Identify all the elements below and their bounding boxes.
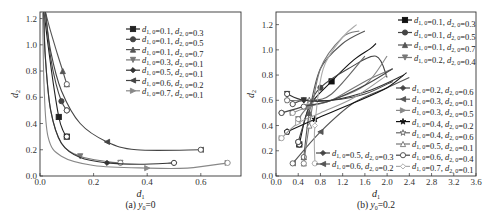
marker-square <box>56 114 61 119</box>
marker-circle <box>59 99 64 104</box>
marker-left-triangle <box>130 78 135 83</box>
marker-circle <box>312 161 317 166</box>
y-tick-label: 0.0 <box>26 171 38 181</box>
marker-diamond <box>400 85 405 90</box>
y-tick-label: 0.2 <box>262 146 273 156</box>
y-tick-label: 0.6 <box>262 95 274 105</box>
chart-a: 0.00.20.40.60.00.20.40.60.81.01.2d1d2(a)… <box>9 12 241 211</box>
marker-square <box>402 17 407 22</box>
y-tick-label: 0.4 <box>262 121 274 131</box>
series-line <box>282 75 388 138</box>
y-tick-label: 1.2 <box>26 14 37 24</box>
marker-circle <box>290 110 295 115</box>
x-axis-label: d1 <box>137 188 145 200</box>
marker-circle <box>64 82 69 87</box>
x-tick-label: 2.4 <box>404 177 416 187</box>
legend-label: d1, 0=0.1, d2, 0=0.5 <box>414 28 476 42</box>
marker-left-triangle <box>400 97 405 102</box>
marker-circle <box>171 160 176 165</box>
x-tick-label: 3.2 <box>448 177 459 187</box>
y-axis-label: d2 <box>245 90 257 98</box>
marker-star <box>400 130 406 136</box>
marker-circle <box>279 136 284 141</box>
marker-circle <box>290 101 295 106</box>
marker-diamond <box>130 68 135 73</box>
series-line <box>304 31 365 157</box>
marker-circle <box>64 134 69 139</box>
marker-square <box>130 26 135 31</box>
marker-left-triangle <box>320 161 325 166</box>
marker-star <box>400 119 406 125</box>
x-tick-label: 3.6 <box>470 177 482 187</box>
x-tick-label: 0.2 <box>88 177 99 187</box>
y-tick-label: 0.8 <box>26 66 38 76</box>
x-tick-label: 0.4 <box>142 177 154 187</box>
y-tick-label: 1.2 <box>262 20 273 30</box>
legend: d1, 0=0.1, d2, 0=0.3d1, 0=0.1, d2, 0=0.5… <box>126 24 204 100</box>
marker-circle <box>290 161 295 166</box>
x-tick-label: 1.6 <box>359 177 371 187</box>
y-tick-label: 0.4 <box>26 119 38 129</box>
y-tick-label: 0.0 <box>262 171 274 181</box>
x-tick-label: 1.2 <box>337 177 348 187</box>
marker-triangle <box>60 68 65 73</box>
marker-circle <box>402 30 407 35</box>
marker-circle <box>296 139 301 144</box>
marker-left-triangle <box>104 139 109 144</box>
marker-circle <box>64 108 69 113</box>
x-tick-label: 0.4 <box>293 177 305 187</box>
marker-circle <box>130 37 135 42</box>
marker-diamond <box>320 150 325 155</box>
y-tick-label: 0.2 <box>26 145 37 155</box>
legend-label: d1, 0=0.1, d2, 0=0.3 <box>414 15 476 29</box>
y-tick-label: 0.6 <box>26 92 38 102</box>
marker-right-triangle <box>145 166 150 171</box>
y-axis-label: d2 <box>9 90 21 98</box>
marker-diamond <box>400 164 405 169</box>
marker-circle <box>198 147 203 152</box>
y-tick-label: 0.8 <box>262 70 274 80</box>
marker-circle <box>301 161 306 166</box>
legend-b-lower: d1, 0=0.2, d2, 0=0.6d1, 0=0.3, d2, 0=0.1… <box>396 83 474 175</box>
marker-right-triangle <box>130 88 135 93</box>
marker-circle <box>400 153 405 158</box>
x-tick-label: 0.8 <box>315 177 327 187</box>
marker-circle <box>301 104 306 109</box>
x-tick-label: 0.6 <box>195 177 207 187</box>
legend-label: d1, 0=0.2, d2, 0=0.6 <box>412 83 474 97</box>
figure: 0.00.20.40.60.00.20.40.60.81.01.2d1d2(a)… <box>0 0 488 224</box>
marker-diamond <box>312 123 317 128</box>
legend-label: d1, 0=0.1, d2, 0=0.7 <box>414 40 476 54</box>
legend-label: d1, 0=0.5, d2, 0=0.3 <box>332 148 394 162</box>
marker-circle <box>285 91 290 96</box>
x-tick-label: 2.0 <box>381 177 393 187</box>
marker-circle <box>118 160 123 165</box>
y-tick-label: 1.0 <box>262 45 274 55</box>
marker-circle <box>285 98 290 103</box>
x-tick-label: 2.8 <box>426 177 438 187</box>
chart-caption: (a) y0=0 <box>125 200 155 211</box>
x-axis-label: d1 <box>372 188 380 200</box>
marker-right-triangle <box>400 108 405 113</box>
legend-label: d1, 0=0.2, d2, 0=0.4 <box>414 53 476 67</box>
marker-circle <box>279 110 284 115</box>
chart-caption: (b) y0=0.2 <box>357 200 395 211</box>
y-tick-label: 1.0 <box>26 40 38 50</box>
series-group <box>279 25 409 166</box>
marker-circle <box>301 154 306 159</box>
marker-circle <box>225 160 230 165</box>
